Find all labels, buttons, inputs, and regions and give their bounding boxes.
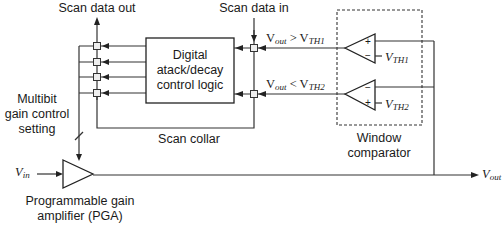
vth1-label: VTH1 [385, 50, 409, 65]
scan-collar-label: Scan collar [158, 132, 220, 146]
vout-arrow-icon [471, 172, 479, 178]
comparator-1-plus: + [365, 36, 371, 47]
scan-cell-3 [94, 74, 101, 81]
scan-cell-cond1 [251, 45, 258, 52]
vin-label: Vin [15, 165, 30, 180]
cond2-label: Vout < VTH2 [266, 77, 325, 92]
gain-bus-arrow-icon [76, 154, 82, 161]
scan-data-out-label: Scan data out [58, 1, 136, 15]
window-label-line2: comparator [347, 146, 410, 160]
pga-amplifier [63, 160, 93, 188]
comparator-2-minus: − [365, 82, 371, 93]
cond1-arrow-icon [235, 45, 243, 51]
vin-arrow-icon [56, 171, 63, 177]
logic-label-line1: Digital [173, 48, 208, 62]
logic-label-line3: control logic [157, 78, 224, 92]
agc-block-diagram: Scan data out Scan collar Digital atack/… [0, 0, 504, 228]
scan-out-arrow-icon [94, 17, 100, 25]
comparator-2-plus: + [365, 97, 371, 108]
vth2-label: VTH2 [385, 97, 409, 112]
gain-rows [79, 43, 146, 97]
window-comparator-box [337, 10, 422, 125]
pga-label-line2: amplifier (PGA) [37, 209, 122, 223]
pga-label-line1: Programmable gain [25, 194, 134, 208]
scan-data-in-label: Scan data in [219, 1, 289, 15]
cond2-cell-arrow-icon [258, 91, 266, 97]
scan-cell-4 [94, 90, 101, 97]
scan-in-arrow-icon [251, 35, 257, 42]
window-label-line1: Window [357, 131, 402, 145]
cond1-label: Vout > VTH1 [266, 31, 325, 46]
comparator-1-minus: − [365, 50, 371, 61]
cond2-arrow-icon [235, 91, 243, 97]
logic-label-line2: atack/decay [157, 63, 224, 77]
scan-cell-1 [94, 43, 101, 50]
multibit-label-line1: Multibit [17, 92, 57, 106]
vout-label: Vout [482, 167, 502, 182]
scan-cell-cond2 [251, 91, 258, 98]
cond1-cell-arrow-icon [258, 45, 266, 51]
multibit-label-line2: gain control [5, 107, 70, 121]
scan-cell-2 [94, 59, 101, 66]
multibit-label-line3: setting [19, 122, 56, 136]
